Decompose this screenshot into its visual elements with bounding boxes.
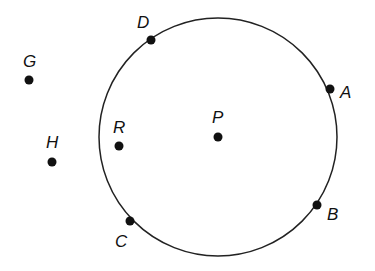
label-d: D [137,13,149,32]
circle-diagram: DABCRPHG [0,0,375,271]
point-p [214,133,223,142]
point-h [48,158,57,167]
point-d [147,36,156,45]
label-h: H [46,133,59,152]
label-b: B [327,205,338,224]
point-a [326,85,335,94]
point-r [115,142,124,151]
point-g [25,76,34,85]
point-b [313,201,322,210]
label-r: R [113,118,125,137]
label-c: C [115,232,128,251]
points-layer: DABCRPHG [23,13,351,251]
label-p: P [212,108,224,127]
point-c [126,217,135,226]
label-a: A [339,83,351,102]
label-g: G [23,52,36,71]
